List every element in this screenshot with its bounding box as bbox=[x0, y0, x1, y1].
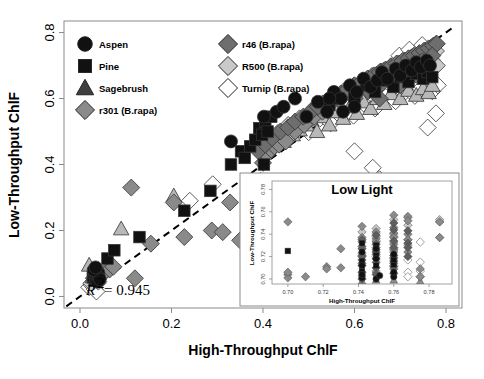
legend-label: Sagebrush bbox=[99, 83, 148, 94]
data-point bbox=[373, 246, 379, 252]
data-point bbox=[78, 37, 93, 52]
y-tick-label: 0.6 bbox=[42, 89, 57, 107]
data-point bbox=[323, 92, 336, 105]
data-point bbox=[258, 159, 270, 171]
data-point bbox=[300, 110, 313, 123]
x-tick-label: 0.6 bbox=[345, 316, 363, 331]
inset-y-tick-label: 0.72 bbox=[260, 251, 266, 262]
data-point bbox=[224, 135, 237, 148]
data-point bbox=[373, 263, 379, 269]
y-tick-label: 0.8 bbox=[42, 24, 57, 42]
x-tick-label: 0.4 bbox=[254, 316, 272, 331]
inset-title: Low Light bbox=[331, 182, 393, 197]
inset-y-tick-label: 0.70 bbox=[260, 274, 266, 285]
data-point bbox=[257, 110, 270, 123]
inset-y-axis-label: Low-Throughput ChlF bbox=[248, 200, 255, 265]
legend-marker-aspen[interactable] bbox=[78, 37, 93, 52]
x-tick-label: 0.2 bbox=[162, 316, 180, 331]
data-point bbox=[391, 257, 397, 263]
data-point bbox=[179, 205, 191, 217]
data-point bbox=[134, 231, 146, 243]
data-point bbox=[391, 269, 397, 275]
legend-label: R500 (B.rapa) bbox=[242, 61, 303, 72]
data-point bbox=[262, 126, 274, 138]
inset-y-tick-label: 0.76 bbox=[260, 206, 266, 217]
data-point bbox=[239, 152, 251, 164]
inset-x-tick-label: 0.78 bbox=[424, 289, 435, 295]
inset-y-tick-label: 0.74 bbox=[260, 229, 266, 240]
inset-x-tick-label: 0.74 bbox=[353, 289, 364, 295]
data-point bbox=[205, 185, 217, 197]
data-point bbox=[391, 251, 397, 257]
legend-marker-pine[interactable] bbox=[79, 60, 92, 73]
r-squared-symbol: R bbox=[85, 282, 95, 298]
y-tick-label: 0.2 bbox=[42, 221, 57, 239]
inset-x-axis-label: High-Throughput ChlF bbox=[329, 297, 395, 304]
inset-y-tick-label: 0.78 bbox=[260, 184, 266, 195]
data-point bbox=[109, 245, 121, 257]
y-tick-label: 0.0 bbox=[42, 287, 57, 305]
legend-label: r46 (B.rapa) bbox=[242, 39, 295, 50]
data-point bbox=[359, 262, 365, 268]
data-point bbox=[321, 105, 334, 118]
data-point bbox=[285, 248, 291, 254]
data-point bbox=[225, 159, 237, 171]
data-point bbox=[89, 261, 102, 274]
data-point bbox=[359, 240, 365, 246]
data-point bbox=[423, 59, 436, 72]
y-axis-label: Low-Throughput ChlF bbox=[6, 91, 22, 238]
data-point bbox=[277, 100, 290, 113]
data-point bbox=[79, 60, 92, 73]
figure-root: 0.00.20.40.60.80.00.20.40.60.8 AspenPine… bbox=[0, 0, 484, 379]
data-point bbox=[337, 105, 350, 118]
data-point bbox=[311, 95, 324, 108]
x-tick-label: 0.8 bbox=[437, 316, 455, 331]
legend-label: Turnip (B.rapa) bbox=[242, 83, 309, 94]
legend-label: r301 (B.rapa) bbox=[99, 105, 157, 116]
y-tick-label: 0.4 bbox=[42, 155, 57, 173]
legend-label: Pine bbox=[99, 61, 119, 72]
data-point bbox=[350, 85, 363, 98]
r-squared-value: = 0.945 bbox=[104, 282, 150, 298]
scatter-plot-figure: 0.00.20.40.60.80.00.20.40.60.8 AspenPine… bbox=[0, 0, 484, 379]
legend-label: Aspen bbox=[99, 39, 128, 50]
inset-x-tick-label: 0.70 bbox=[282, 289, 293, 295]
x-tick-label: 0.0 bbox=[71, 316, 89, 331]
inset-x-tick-label: 0.76 bbox=[388, 289, 399, 295]
data-point bbox=[359, 249, 365, 255]
data-point bbox=[373, 256, 379, 262]
x-axis-label: High-Throughput ChlF bbox=[188, 342, 338, 358]
data-point bbox=[427, 71, 439, 83]
inset-x-tick-label: 0.72 bbox=[318, 289, 329, 295]
data-point bbox=[359, 271, 365, 277]
data-point bbox=[376, 272, 382, 278]
